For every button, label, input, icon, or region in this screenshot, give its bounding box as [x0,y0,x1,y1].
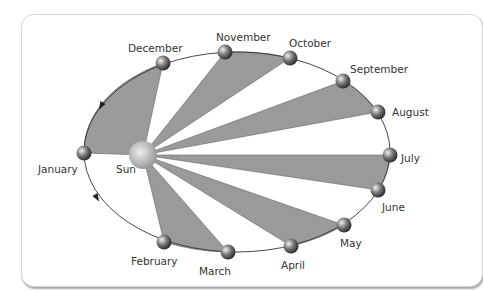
planet-icon-january [77,146,92,161]
planet-icon-july [383,148,398,163]
sun-label: Sun [116,163,136,175]
planet-icon-november [218,45,233,60]
month-label-november: November [216,31,271,43]
month-label-september: September [350,63,409,75]
direction-arrow-icon [92,193,101,203]
month-label-may: May [340,237,362,249]
month-label-june: June [381,201,405,213]
planet-icon-may [337,218,352,233]
month-label-october: October [289,37,332,49]
planet-icon-april [284,239,299,254]
sector-january-december [84,63,163,155]
planet-icon-february [157,235,172,250]
month-label-december: December [128,42,183,54]
month-label-august: August [392,106,429,118]
planet-icon-march [221,245,236,260]
planet-icon-october [283,51,298,66]
month-label-february: February [131,255,178,267]
month-label-march: March [199,265,231,277]
month-label-july: July [400,152,420,164]
month-label-january: January [37,163,78,175]
planet-icon-june [371,183,386,198]
month-label-april: April [281,259,305,271]
planet-icon-december [156,56,171,71]
planet-icon-september [336,74,351,89]
planet-icon-august [371,105,386,120]
